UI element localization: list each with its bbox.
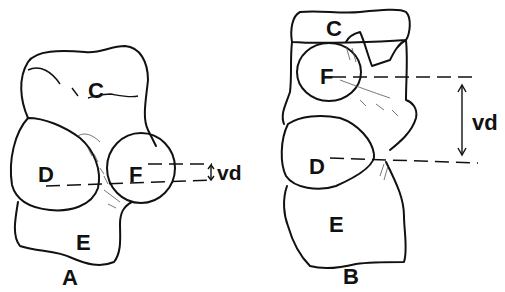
panel-b-label-f: F bbox=[320, 64, 333, 89]
bone-diagram: C D F E vd A C F D E vd B bbox=[0, 0, 505, 292]
panel-a-measure-vd: vd bbox=[217, 161, 242, 184]
panel-a-bone-d bbox=[11, 118, 99, 210]
panel-b-measure-vd: vd bbox=[472, 110, 498, 135]
panel-a-bone-c-ridge bbox=[28, 68, 138, 98]
panel-a-label-f: F bbox=[129, 162, 142, 187]
panel-a-caption: A bbox=[62, 265, 78, 290]
panel-b-bone-e bbox=[284, 162, 406, 268]
panel-b-label-c: C bbox=[326, 16, 342, 41]
panel-b-hatch bbox=[340, 46, 398, 180]
panel-b-caption: B bbox=[343, 264, 359, 289]
panel-a-label-d: D bbox=[38, 162, 54, 187]
panel-b-notch bbox=[346, 32, 406, 66]
panel-b: C F D E vd B bbox=[282, 10, 498, 289]
panel-a-label-e: E bbox=[76, 230, 91, 255]
panel-b-bone-d bbox=[282, 116, 374, 189]
panel-a-bone-e bbox=[15, 202, 132, 265]
panel-b-dash-d bbox=[330, 158, 478, 163]
panel-b-label-d: D bbox=[309, 154, 325, 179]
panel-a-label-c: C bbox=[88, 78, 104, 103]
panel-a: C D F E vd A bbox=[11, 46, 242, 290]
panel-b-bone-c bbox=[291, 10, 410, 43]
panel-b-label-e: E bbox=[329, 212, 344, 237]
